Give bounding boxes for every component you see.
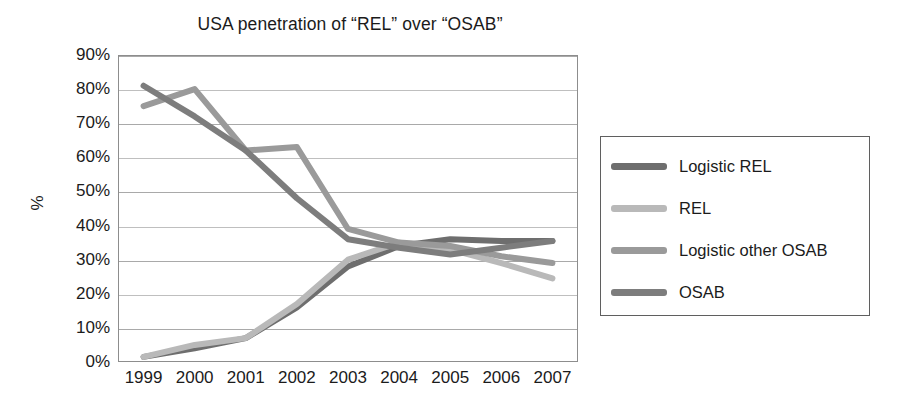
x-tick-label: 1999: [116, 368, 172, 388]
legend-swatch-icon: [611, 247, 667, 254]
y-tick-label: 20%: [52, 285, 110, 302]
chart-legend: Logistic RELRELLogistic other OSABOSAB: [600, 136, 870, 316]
y-tick-label: 60%: [52, 148, 110, 165]
x-tick-label: 2006: [473, 368, 529, 388]
x-tick-label: 2002: [269, 368, 325, 388]
x-tick-label: 2007: [524, 368, 580, 388]
y-tick-label: 30%: [52, 251, 110, 268]
gridline: [119, 56, 577, 57]
gridline: [119, 227, 577, 228]
chart-figure: USA penetration of “REL” over “OSAB” % 0…: [0, 0, 897, 420]
gridline: [119, 261, 577, 262]
x-tick-label: 2000: [167, 368, 223, 388]
y-tick-label: 80%: [52, 80, 110, 97]
gridline: [119, 329, 577, 330]
legend-swatch-icon: [611, 205, 667, 212]
legend-label: OSAB: [679, 283, 725, 302]
legend-item[interactable]: Logistic REL: [611, 153, 772, 179]
legend-item[interactable]: OSAB: [611, 279, 725, 305]
y-axis-tick-labels: 0%10%20%30%40%50%60%70%80%90%: [46, 55, 110, 362]
gridline: [119, 90, 577, 91]
y-tick-label: 50%: [52, 182, 110, 199]
x-axis-tick-labels: 199920002001200220032004200520062007: [118, 368, 578, 394]
y-axis-title: %: [28, 183, 48, 223]
x-tick-label: 2004: [371, 368, 427, 388]
plot-area: [118, 55, 578, 362]
legend-swatch-icon: [611, 163, 667, 170]
gridline: [119, 124, 577, 125]
x-tick-label: 2003: [320, 368, 376, 388]
y-tick-label: 10%: [52, 319, 110, 336]
legend-swatch-icon: [611, 289, 667, 296]
legend-label: Logistic REL: [679, 157, 772, 176]
gridline: [119, 158, 577, 159]
y-tick-label: 90%: [52, 46, 110, 63]
y-tick-label: 70%: [52, 114, 110, 131]
legend-item[interactable]: REL: [611, 195, 711, 221]
y-tick-label: 40%: [52, 217, 110, 234]
legend-item[interactable]: Logistic other OSAB: [611, 237, 828, 263]
legend-label: Logistic other OSAB: [679, 241, 828, 260]
gridline: [119, 295, 577, 296]
y-tick-label: 0%: [52, 353, 110, 370]
gridline: [119, 192, 577, 193]
chart-title: USA penetration of “REL” over “OSAB”: [120, 14, 580, 35]
legend-label: REL: [679, 199, 711, 218]
x-tick-label: 2001: [218, 368, 274, 388]
x-tick-label: 2005: [422, 368, 478, 388]
